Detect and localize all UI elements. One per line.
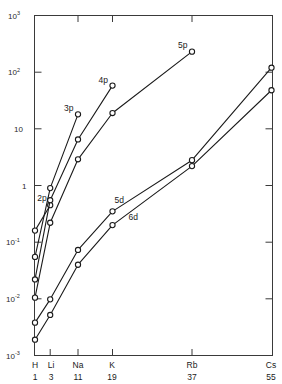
series-label-5d: 5d	[115, 195, 125, 205]
series-label-2p: 2p	[37, 193, 47, 203]
series-4p	[32, 83, 115, 282]
y-tick-label-10: 10	[14, 125, 23, 134]
x-axis-labels: H 1 Li 3 Na 11 K 19 Rb 37 Cs 55	[32, 360, 276, 382]
data-point-5d-Li	[48, 297, 53, 302]
data-point-5p-H	[32, 295, 37, 300]
x-tick-z-Li: 3	[49, 372, 54, 382]
y-tick-label-1000: 103	[8, 10, 20, 21]
y-tick-exponent-minus3: -3	[15, 350, 20, 356]
data-point-5d-H	[32, 320, 37, 325]
y-tick-exponent-3: 3	[17, 10, 20, 16]
x-tick-z-Cs: 55	[266, 372, 276, 382]
data-point-4p-Na	[75, 137, 80, 142]
data-point-5d-Cs	[269, 65, 274, 70]
series-label-4p: 4p	[99, 75, 109, 85]
y-axis-labels: 103 102 10 1 10-1 10-2 10-3	[6, 10, 27, 361]
series-6d	[32, 88, 274, 343]
log-line-chart: 103 102 10 1 10-1 10-2 10-3 H 1 Li 3 Na …	[0, 0, 282, 384]
x-tick-z-Na: 11	[74, 372, 83, 382]
y-tick-label-0.01: 10-2	[6, 293, 20, 304]
data-point-5d-K	[110, 209, 115, 214]
series-label-5p: 5p	[178, 40, 188, 50]
data-series-layer	[32, 49, 274, 342]
y-tick-label-0.1: 10-1	[6, 237, 20, 248]
data-point-6d-K	[110, 223, 115, 228]
data-point-5p-K	[110, 110, 115, 115]
data-point-5d-Na	[75, 247, 80, 252]
x-tick-z-H: 1	[33, 372, 38, 382]
y-tick-label-1: 1	[22, 182, 27, 191]
data-point-3p-Na	[75, 112, 80, 117]
y-tick-label-0.001: 10-3	[6, 350, 20, 361]
x-axis-ticks-top	[78, 16, 192, 23]
data-point-5p-Rb	[189, 49, 194, 54]
data-point-5p-Na	[75, 157, 80, 162]
x-tick-z-K: 19	[107, 372, 117, 382]
data-point-6d-Rb	[189, 164, 194, 169]
y-tick-exponent-2: 2	[17, 67, 20, 73]
x-tick-symbol-Cs: Cs	[266, 360, 276, 370]
x-tick-symbol-Rb: Rb	[187, 360, 198, 370]
data-point-2p-H	[32, 228, 37, 233]
data-point-6d-Na	[75, 262, 80, 267]
x-tick-z-Rb: 37	[187, 372, 197, 382]
data-point-4p-Li	[48, 198, 53, 203]
series-label-layer: 2p3p4p5p5d6d	[37, 40, 188, 222]
data-point-5p-Li	[48, 220, 53, 225]
y-axis-ticks	[35, 16, 42, 356]
series-line-2p	[35, 205, 50, 230]
data-point-6d-Li	[48, 312, 53, 317]
data-point-6d-H	[32, 337, 37, 342]
series-label-6d: 6d	[129, 212, 139, 222]
data-point-6d-Cs	[269, 88, 274, 93]
x-tick-symbol-H: H	[32, 360, 38, 370]
series-2p	[32, 203, 52, 234]
x-tick-symbol-K: K	[109, 360, 115, 370]
series-label-3p: 3p	[64, 103, 74, 113]
y-tick-label-100: 102	[8, 67, 20, 78]
y-tick-exponent-minus2: -2	[15, 293, 20, 299]
data-point-4p-K	[110, 83, 115, 88]
data-point-3p-Li	[48, 186, 53, 191]
series-line-4p	[35, 86, 113, 280]
y-axis-ticks-right	[266, 72, 273, 299]
data-point-5d-Rb	[189, 158, 194, 163]
data-point-4p-H	[32, 277, 37, 282]
y-tick-exponent-minus1: -1	[15, 237, 20, 243]
data-point-3p-H	[32, 254, 37, 259]
x-tick-symbol-Li: Li	[48, 360, 55, 370]
series-line-6d	[35, 90, 272, 339]
x-axis-ticks	[50, 349, 192, 356]
x-tick-symbol-Na: Na	[73, 360, 84, 370]
